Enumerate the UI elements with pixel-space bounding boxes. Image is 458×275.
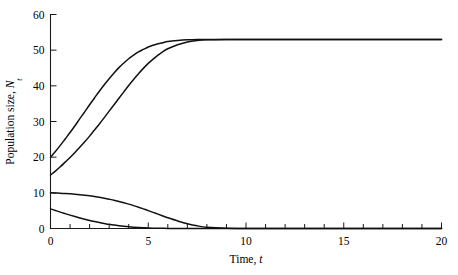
x-tick-label: 15: [338, 235, 350, 247]
population-curve: [51, 39, 442, 157]
x-axis-ticks: [51, 223, 442, 229]
y-tick-label: 40: [33, 80, 45, 92]
y-axis-ticks: [51, 15, 57, 193]
population-curve: [51, 39, 442, 175]
y-tick-label: 0: [39, 223, 45, 235]
y-tick-label: 50: [33, 44, 45, 56]
x-tick-label: 5: [145, 235, 151, 247]
x-axis-tick-labels: 05101520: [48, 235, 448, 247]
y-axis-tick-labels: 0102030405060: [33, 9, 45, 235]
chart-canvas: 05101520 0102030405060 Time, t Populatio…: [0, 0, 458, 275]
axes-group: [51, 15, 442, 229]
y-tick-label: 60: [33, 9, 45, 21]
y-tick-label: 10: [33, 187, 45, 199]
x-tick-label: 20: [436, 235, 448, 247]
population-growth-chart: 05101520 0102030405060 Time, t Populatio…: [0, 0, 458, 275]
x-axis-title: Time, t: [230, 253, 264, 266]
x-tick-label: 0: [48, 235, 54, 247]
y-axis-title: Population size, Nt: [4, 78, 23, 165]
x-tick-label: 10: [240, 235, 252, 247]
y-tick-label: 20: [33, 151, 45, 163]
data-curves-group: [51, 39, 442, 228]
y-tick-label: 30: [33, 116, 45, 128]
